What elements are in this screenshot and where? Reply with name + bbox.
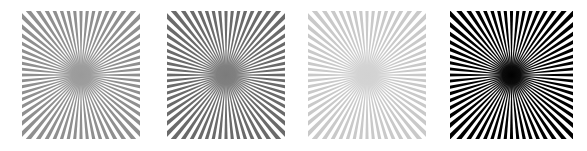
aliased-center-blob — [200, 49, 252, 101]
starburst-panel — [22, 11, 140, 139]
starburst-canvas — [308, 11, 426, 139]
starburst-canvas — [167, 11, 285, 139]
starburst-svg — [450, 11, 573, 139]
starburst-panel — [167, 11, 285, 139]
starburst-panel — [450, 11, 573, 139]
figure-root — [0, 0, 587, 151]
starburst-panel — [308, 11, 426, 139]
starburst-canvas — [22, 11, 140, 139]
starburst-svg — [22, 11, 140, 139]
aliased-center-blob — [488, 51, 536, 99]
starburst-svg — [167, 11, 285, 139]
starburst-canvas — [450, 11, 573, 139]
aliased-center-blob — [55, 49, 107, 101]
starburst-svg — [308, 11, 426, 139]
aliased-center-blob — [341, 49, 393, 101]
